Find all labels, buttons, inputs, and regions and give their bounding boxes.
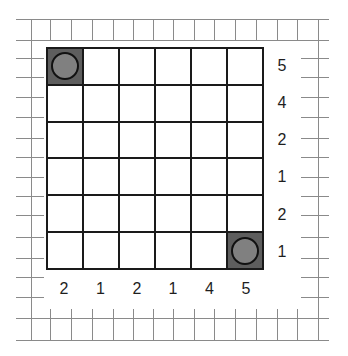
grid-cell-r2-c1[interactable] [48,86,84,123]
frame-left-tick [16,77,44,78]
grid-cell-r1-c5[interactable] [192,49,228,86]
frame-right-tick [301,58,329,59]
row-clue-1: 5 [272,56,292,76]
grid-cell-r1-c3[interactable] [120,49,156,86]
frame-bottom-tick [92,309,93,340]
frame-bottom-tick [71,309,72,340]
grid-cell-r6-c3[interactable] [120,233,156,270]
frame-bottom-tick [256,309,257,340]
frame-top-tick [297,19,298,40]
frame-right-tick [301,138,329,139]
grid-cell-r5-c6[interactable] [228,196,264,233]
grid-cell-r1-c2[interactable] [84,49,120,86]
grid-cell-r6-c1[interactable] [48,233,84,270]
frame-left-tick [16,258,44,259]
grid-cell-r3-c6[interactable] [228,123,264,160]
frame-left-tick [16,177,44,178]
frame-left-tick [16,277,44,278]
column-clue-5: 4 [200,279,220,299]
grid-cell-r5-c5[interactable] [192,196,228,233]
frame-top-tick [256,19,257,40]
frame-left-tick [16,138,44,139]
grid-cell-r2-c6[interactable] [228,86,264,123]
frame-bottom-tick [277,309,278,340]
frame-bottom-tick [194,309,195,340]
frame-bottom-tick [235,309,236,340]
frame-bottom-tick [153,309,154,340]
row-clue-6: 1 [272,242,292,262]
grid-cell-r4-c4[interactable] [156,159,192,196]
frame-bottom-tick [113,309,114,340]
frame-top-tick [277,19,278,40]
column-clue-6: 5 [236,279,256,299]
grid-cell-r3-c5[interactable] [192,123,228,160]
grid-cell-r6-c2[interactable] [84,233,120,270]
circle-piece-icon [231,237,259,265]
frame-vertical-line [318,19,319,340]
frame-right-tick [301,237,329,238]
circle-piece-icon [51,52,79,80]
frame-right-tick [301,117,329,118]
frame-bottom-tick [297,309,298,340]
row-clue-3: 2 [272,130,292,150]
grid-cell-r5-c1[interactable] [48,196,84,233]
frame-bottom-tick [50,309,51,340]
grid-cell-r3-c2[interactable] [84,123,120,160]
frame-left-tick [16,215,44,216]
grid-cell-r1-c1[interactable] [48,49,84,86]
grid-cell-r6-c5[interactable] [192,233,228,270]
frame-right-tick [301,297,329,298]
grid-cell-r2-c4[interactable] [156,86,192,123]
frame-left-tick [16,196,44,197]
frame-top-tick [92,19,93,40]
row-clue-2: 4 [272,93,292,113]
grid-cell-r4-c1[interactable] [48,159,84,196]
frame-left-tick [16,97,44,98]
frame-bottom-tick [214,309,215,340]
column-clue-2: 1 [91,279,111,299]
frame-left-tick [16,297,44,298]
frame-right-tick [301,215,329,216]
frame-left-tick [16,157,44,158]
grid-cell-r6-c6[interactable] [228,233,264,270]
frame-right-tick [301,277,329,278]
grid-cell-r5-c4[interactable] [156,196,192,233]
row-clue-4: 1 [272,167,292,187]
grid-cell-r3-c4[interactable] [156,123,192,160]
column-clue-4: 1 [163,279,183,299]
frame-left-tick [16,117,44,118]
grid-cell-r3-c1[interactable] [48,123,84,160]
frame-right-tick [301,196,329,197]
grid-cell-r1-c6[interactable] [228,49,264,86]
grid-cell-r4-c2[interactable] [84,159,120,196]
frame-top-tick [214,19,215,40]
row-clue-5: 2 [272,205,292,225]
grid-cell-r2-c2[interactable] [84,86,120,123]
column-clue-1: 2 [54,279,74,299]
frame-right-tick [301,258,329,259]
grid-cell-r1-c4[interactable] [156,49,192,86]
frame-right-tick [301,177,329,178]
grid-cell-r2-c3[interactable] [120,86,156,123]
column-clue-3: 2 [127,279,147,299]
frame-top-tick [173,19,174,40]
frame-top-tick [133,19,134,40]
puzzle-grid [46,47,264,270]
grid-cell-r5-c2[interactable] [84,196,120,233]
frame-left-tick [16,58,44,59]
grid-cell-r4-c6[interactable] [228,159,264,196]
grid-cell-r6-c4[interactable] [156,233,192,270]
frame-right-tick [301,77,329,78]
frame-right-tick [301,97,329,98]
grid-cell-r3-c3[interactable] [120,123,156,160]
frame-left-tick [16,237,44,238]
grid-cell-r4-c5[interactable] [192,159,228,196]
frame-right-tick [301,157,329,158]
frame-vertical-line [31,19,32,340]
grid-cell-r4-c3[interactable] [120,159,156,196]
frame-top-tick [50,19,51,40]
frame-horizontal-line [16,40,329,41]
grid-cell-r5-c3[interactable] [120,196,156,233]
frame-top-tick [194,19,195,40]
grid-cell-r2-c5[interactable] [192,86,228,123]
